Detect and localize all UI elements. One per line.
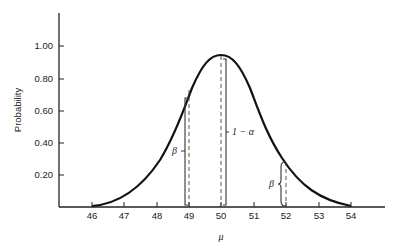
x-tick-label: 49 xyxy=(184,210,195,221)
brace-52 xyxy=(278,162,285,206)
one-minus-alpha-label: 1 − α xyxy=(232,126,255,137)
probability-chart: 0.20 0.40 0.60 0.80 1.00 46 47 48 49 50 … xyxy=(0,0,398,252)
x-tick-label: 46 xyxy=(87,210,98,221)
x-tick-label: 48 xyxy=(152,210,163,221)
x-tick-label: 50 xyxy=(216,210,227,221)
x-ticks xyxy=(92,202,351,207)
y-tick-label: 0.60 xyxy=(35,105,54,116)
y-ticks xyxy=(59,46,64,175)
y-tick-label: 0.40 xyxy=(35,137,54,148)
bracket-49 xyxy=(185,98,188,205)
x-tick-label: 52 xyxy=(281,210,292,221)
x-tick-label: 53 xyxy=(314,210,325,221)
x-tick-labels: 46 47 48 49 50 51 52 53 54 xyxy=(87,210,357,221)
x-tick-label: 51 xyxy=(249,210,260,221)
y-axis-title: Probability xyxy=(12,88,23,133)
y-tick-labels: 0.20 0.40 0.60 0.80 1.00 xyxy=(35,40,54,180)
probability-curve xyxy=(92,55,351,206)
x-tick-label: 54 xyxy=(346,210,357,221)
beta-label-left: β xyxy=(171,145,177,156)
x-axis-title: μ xyxy=(217,231,223,242)
y-tick-label: 0.80 xyxy=(35,73,54,84)
x-tick-label: 47 xyxy=(119,210,130,221)
y-tick-label: 1.00 xyxy=(35,40,54,51)
bracket-50 xyxy=(223,59,226,205)
beta-label-right: β xyxy=(268,178,274,189)
y-tick-label: 0.20 xyxy=(35,169,54,180)
